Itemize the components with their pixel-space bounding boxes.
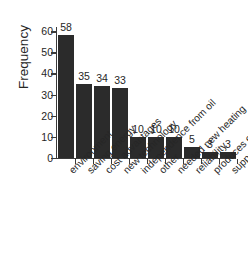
x-axis-tick-mark [129, 159, 130, 164]
y-axis-tick-mark [51, 137, 56, 138]
x-axis-category-labels: environmentsaving energycost advantagesn… [0, 0, 248, 278]
x-axis-tick-mark [237, 159, 238, 164]
x-axis-tick-mark [147, 159, 148, 164]
y-axis-tick-mark [51, 95, 56, 96]
y-axis-tick-mark [51, 52, 56, 53]
y-axis-tick-mark [51, 31, 56, 32]
x-axis-tick-mark [93, 159, 94, 164]
y-axis-tick-mark [51, 73, 56, 74]
bar-chart: Frequency 0102030405060 5835343310101053… [0, 0, 248, 278]
y-axis-tick-mark [51, 116, 56, 117]
y-axis-tick-mark [51, 158, 56, 159]
x-axis-tick-mark [219, 159, 220, 164]
x-axis-tick-mark [183, 159, 184, 164]
x-axis-tick-mark [111, 159, 112, 164]
x-axis-tick-mark [75, 159, 76, 164]
x-axis-tick-mark [165, 159, 166, 164]
x-axis-tick-mark [201, 159, 202, 164]
